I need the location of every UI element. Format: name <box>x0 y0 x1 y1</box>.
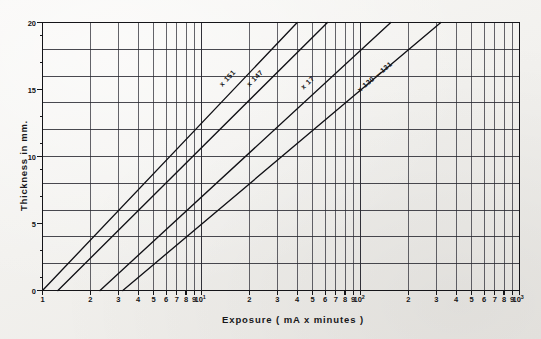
x-tick-label: 102 <box>353 295 364 304</box>
x-tick-label-exponent: 1 <box>203 294 206 300</box>
x-tick-label: 4 <box>454 295 458 304</box>
chart-screenshot: 1234567891012345678910223456789103 05101… <box>0 0 541 339</box>
x-tick-label: 3 <box>116 295 120 304</box>
x-tick-label: 6 <box>164 295 168 304</box>
x-tick-label: 2 <box>247 295 251 304</box>
x-tick-label: 4 <box>136 295 140 304</box>
x-axis-title: Exposure ( mA x minutes ) <box>222 314 364 325</box>
x-tick-label: 2 <box>88 295 92 304</box>
y-tick-label: 20 <box>20 18 36 27</box>
x-tick-label: 1 <box>40 295 44 304</box>
x-tick-label: 2 <box>406 295 410 304</box>
semilog-plot <box>0 0 541 339</box>
x-tick-label: 8 <box>184 295 188 304</box>
x-tick-label-exponent: 3 <box>521 294 524 300</box>
x-tick-label: 7 <box>493 295 497 304</box>
x-tick-label: 8 <box>502 295 506 304</box>
x-tick-label: 7 <box>334 295 338 304</box>
x-tick-label-exponent: 2 <box>362 294 365 300</box>
x-tick-label: 3 <box>275 295 279 304</box>
y-axis-title: Thickness in mm. <box>18 106 29 226</box>
x-tick-label: 8 <box>343 295 347 304</box>
x-tick-label: 5 <box>311 295 315 304</box>
x-tick-label: 6 <box>482 295 486 304</box>
x-tick-label: 6 <box>323 295 327 304</box>
y-tick-label: 0 <box>20 286 36 295</box>
x-tick-label: 5 <box>470 295 474 304</box>
x-tick-label: 103 <box>512 295 523 304</box>
x-tick-label: 101 <box>194 295 205 304</box>
x-tick-label: 3 <box>434 295 438 304</box>
y-tick-label: 15 <box>20 85 36 94</box>
x-tick-label: 5 <box>152 295 156 304</box>
x-tick-label: 7 <box>175 295 179 304</box>
x-tick-label: 4 <box>295 295 299 304</box>
